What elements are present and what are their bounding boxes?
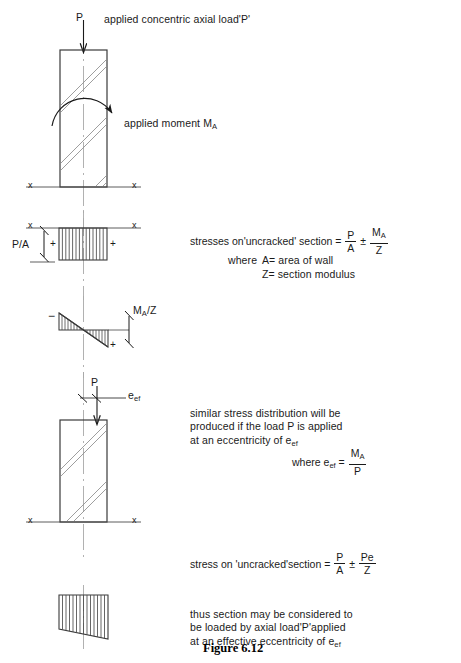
final-stress-equation: stress on 'uncracked'section = P A ± Pe … bbox=[190, 553, 377, 578]
combined-stress-hatch bbox=[63, 595, 105, 638]
bending-dim-den: /Z bbox=[147, 304, 157, 316]
uncracked-stress-operator: ± bbox=[360, 235, 366, 247]
eccentricity-label: eef bbox=[128, 389, 140, 403]
wall-elevation-lower-group bbox=[26, 372, 141, 604]
thus-section-sub: ef bbox=[334, 640, 341, 649]
section-mark-left-1: x bbox=[28, 180, 33, 190]
ma-sub: A bbox=[381, 232, 386, 241]
ma-sub-2: A bbox=[359, 453, 364, 462]
uniform-plus-right: + bbox=[110, 238, 116, 249]
uniform-stress-hatch bbox=[62, 228, 103, 260]
eccentricity-def-symbol: eef bbox=[324, 456, 336, 468]
fraction-numerator-pe: Pe bbox=[359, 551, 376, 564]
eccentricity-label-sub: ef bbox=[134, 394, 141, 403]
similar-stress-sub: ef bbox=[292, 439, 299, 448]
pa-dimension-label: P/A bbox=[12, 238, 29, 250]
moment-label-text: applied moment M bbox=[124, 117, 212, 129]
where-keyword-2: where bbox=[292, 456, 321, 468]
fraction-pe-over-z: Pe Z bbox=[359, 551, 376, 576]
fraction-p-over-a-2: P A bbox=[334, 551, 345, 576]
fraction-ma-over-p: MA P bbox=[349, 447, 367, 476]
axial-load-label: applied concentric axial load'P' bbox=[104, 13, 250, 25]
uniform-plus-left: + bbox=[50, 238, 56, 249]
fraction-numerator-p: P bbox=[345, 229, 356, 242]
fraction-numerator-ma-2: MA bbox=[349, 447, 367, 464]
uncracked-stress-lead: stresses on'uncracked' section = bbox=[190, 235, 341, 247]
where-keyword-1: where bbox=[228, 254, 257, 266]
bending-plus-sign: + bbox=[110, 339, 116, 350]
fraction-denominator-z-2: Z bbox=[359, 564, 376, 576]
fraction-denominator-a-2: A bbox=[334, 564, 345, 576]
eccentricity-dimension bbox=[78, 394, 126, 403]
where-line-area: A= area of wall bbox=[262, 254, 333, 266]
fraction-numerator-p-2: P bbox=[334, 551, 345, 564]
section-mark-right-1: x bbox=[132, 180, 137, 190]
bending-minus-sign: − bbox=[48, 309, 55, 323]
similar-stress-text: similar stress distribution will be prod… bbox=[190, 407, 343, 446]
eccentricity-def-equals: = bbox=[339, 456, 345, 468]
eccentricity-definition-equation: where eef = MA P bbox=[292, 449, 367, 478]
section-mark-left-3: x bbox=[28, 515, 33, 525]
load-symbol-top-label: P bbox=[76, 11, 83, 23]
moment-label: applied moment MA bbox=[124, 117, 217, 131]
where-line-modulus: Z= section modulus bbox=[262, 268, 355, 280]
section-mark-left-2: x bbox=[28, 220, 33, 230]
fraction-denominator-z: Z bbox=[370, 244, 388, 256]
bending-stress-group bbox=[59, 296, 134, 378]
final-stress-lead: stress on 'uncracked'section = bbox=[190, 558, 330, 570]
final-stress-operator: ± bbox=[349, 558, 355, 570]
figure-caption: Figure 6.12 bbox=[203, 641, 263, 656]
fraction-numerator-ma: MA bbox=[370, 226, 388, 243]
ma-base: M bbox=[372, 226, 381, 238]
bending-dimension-label: MA/Z bbox=[133, 304, 157, 318]
fraction-denominator-a: A bbox=[345, 242, 356, 254]
load-symbol-lower-label: P bbox=[91, 376, 98, 388]
bending-dim-num: M bbox=[133, 304, 142, 316]
section-mark-right-2: x bbox=[132, 220, 137, 230]
fraction-ma-over-z: MA Z bbox=[370, 226, 388, 255]
combined-stress-group bbox=[59, 585, 108, 650]
section-mark-right-3: x bbox=[132, 515, 137, 525]
moment-subscript: A bbox=[212, 122, 217, 131]
fraction-p-over-a: P A bbox=[345, 229, 356, 254]
similar-stress-paragraph: similar stress distribution will be prod… bbox=[190, 393, 343, 450]
fraction-denominator-p: P bbox=[349, 465, 367, 477]
uniform-stress-group bbox=[26, 210, 141, 300]
uncracked-stress-equation: stresses on'uncracked' section = P A ± M… bbox=[190, 228, 389, 257]
ecc-sub: ef bbox=[329, 461, 335, 470]
figure-6-12-container: applied concentric axial load'P' P appli… bbox=[0, 0, 461, 663]
